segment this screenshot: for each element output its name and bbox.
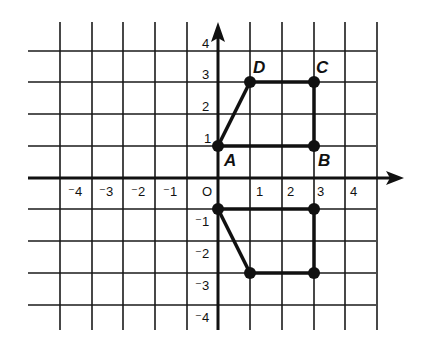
label-a: A — [223, 151, 236, 170]
vertex-b-prime — [308, 203, 320, 215]
vertex-a-prime — [212, 203, 224, 215]
x-tick-4: 4 — [350, 184, 357, 199]
x-tick-neg1: ⁻1 — [163, 184, 177, 199]
x-tick-3: 3 — [317, 184, 324, 199]
x-tick-2: 2 — [287, 184, 294, 199]
label-c: C — [316, 58, 329, 77]
y-tick-4: 4 — [202, 36, 209, 51]
vertex-c — [308, 76, 320, 88]
x-tick-neg4: ⁻4 — [68, 184, 82, 199]
x-tick-1: 1 — [256, 184, 263, 199]
vertex-d — [244, 76, 256, 88]
vertex-c-prime — [308, 267, 320, 279]
y-tick-neg3: ⁻3 — [195, 278, 209, 293]
y-tick-neg1: ⁻1 — [195, 214, 209, 229]
y-tick-neg2: ⁻2 — [195, 246, 209, 261]
y-tick-labels: 4 3 2 1 ⁻1 ⁻2 ⁻3 ⁻4 — [195, 36, 211, 325]
vertex-a — [212, 140, 224, 152]
y-tick-3: 3 — [202, 67, 209, 82]
y-tick-neg4: ⁻4 — [195, 310, 209, 325]
y-tick-2: 2 — [202, 99, 209, 114]
x-tick-neg2: ⁻2 — [131, 184, 145, 199]
vertex-d-prime — [244, 267, 256, 279]
coordinate-plane: ⁻4 ⁻3 ⁻2 ⁻1 1 2 3 4 O 4 3 2 1 ⁻1 ⁻2 ⁻3 ⁻… — [0, 0, 428, 349]
label-b: B — [318, 151, 330, 170]
y-tick-1: 1 — [204, 131, 211, 146]
x-tick-neg3: ⁻3 — [99, 184, 113, 199]
label-d: D — [253, 58, 265, 77]
origin-label: O — [202, 184, 212, 199]
